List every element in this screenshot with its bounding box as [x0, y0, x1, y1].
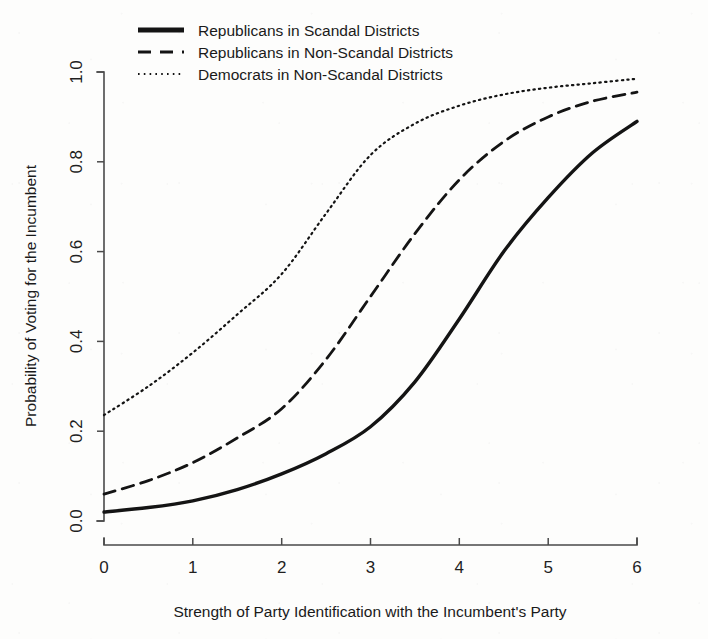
y-tick-label-0.8: 0.8: [67, 150, 86, 174]
y-tick-label-0.4: 0.4: [67, 330, 86, 354]
y-tick-label-0.2: 0.2: [67, 419, 86, 443]
legend-label-0: Republicans in Scandal Districts: [198, 22, 420, 39]
x-tick-label-6: 6: [632, 558, 641, 577]
y-axis-line: [97, 72, 104, 521]
x-tick-label-2: 2: [277, 558, 286, 577]
series-line-republicans-scandal: [104, 121, 637, 512]
x-axis-title: Strength of Party Identification with th…: [173, 603, 566, 620]
x-tick-label-1: 1: [188, 558, 197, 577]
x-tick-label-5: 5: [543, 558, 552, 577]
y-axis-title: Probability of Voting for the Incumbent: [22, 164, 39, 427]
legend: Republicans in Scandal Districts Republi…: [138, 22, 453, 83]
figure-container: 1.0 0.8 0.6 0.4 0.2 0.0 Probability of V…: [0, 0, 708, 639]
legend-label-2: Democrats in Non-Scandal Districts: [198, 66, 443, 83]
x-axis: 0 1 2 3 4 5 6 Strength of Party Identifi…: [99, 538, 641, 620]
legend-label-1: Republicans in Non-Scandal Districts: [198, 44, 453, 61]
x-tick-label-0: 0: [99, 558, 108, 577]
series-line-democrats-non-scandal: [104, 79, 637, 415]
line-chart: 1.0 0.8 0.6 0.4 0.2 0.0 Probability of V…: [0, 0, 708, 639]
y-axis: 1.0 0.8 0.6 0.4 0.2 0.0 Probability of V…: [22, 60, 104, 533]
y-tick-label-0.0: 0.0: [67, 509, 86, 533]
x-tick-label-4: 4: [455, 558, 464, 577]
legend-item-2[interactable]: Democrats in Non-Scandal Districts: [138, 66, 443, 83]
series-group: [104, 79, 637, 512]
x-tick-label-3: 3: [366, 558, 375, 577]
legend-item-1[interactable]: Republicans in Non-Scandal Districts: [138, 44, 453, 61]
y-tick-label-0.6: 0.6: [67, 240, 86, 264]
series-line-republicans-non-scandal: [104, 92, 637, 494]
legend-item-0[interactable]: Republicans in Scandal Districts: [138, 22, 420, 39]
y-tick-label-1.0: 1.0: [67, 60, 86, 84]
